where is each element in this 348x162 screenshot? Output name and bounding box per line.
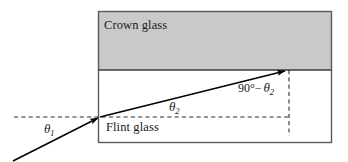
theta1-angle-label: θ1 xyxy=(44,122,54,138)
flint-glass-label: Flint glass xyxy=(106,121,159,134)
complement-prefix: 90°− xyxy=(238,81,262,95)
complement-subscript: 2 xyxy=(269,87,274,97)
refraction-diagram: Crown glass Flint glass θ1 θ2 90°−θ2 xyxy=(0,0,348,162)
theta2-angle-label: θ2 xyxy=(169,100,179,116)
theta1-subscript: 1 xyxy=(50,128,55,138)
theta2-subscript: 2 xyxy=(175,106,180,116)
crown-glass-label: Crown glass xyxy=(104,19,167,32)
complement-angle-label: 90°−θ2 xyxy=(238,81,274,97)
incident-ray xyxy=(13,118,98,161)
